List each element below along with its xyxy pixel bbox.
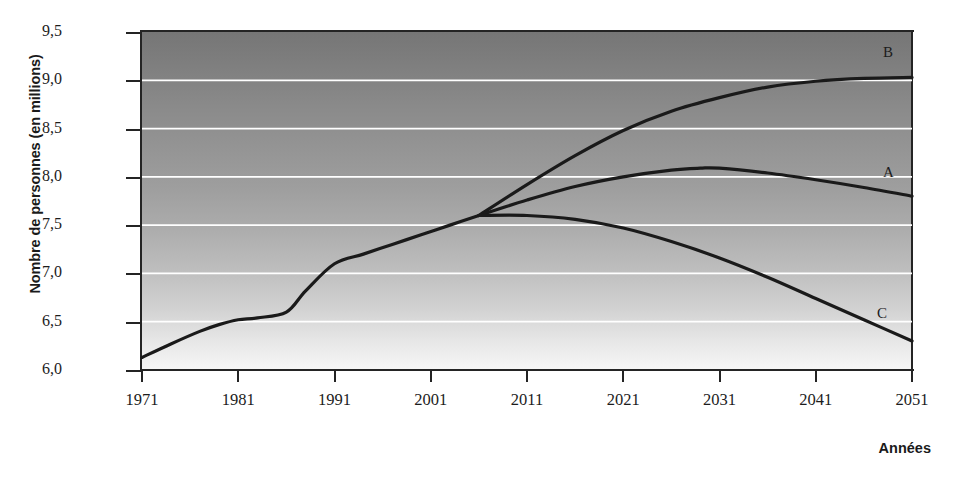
curve-label-b: B (883, 44, 893, 61)
y-tick-mark (126, 322, 141, 324)
plot-area (142, 32, 912, 370)
y-tick-mark (126, 80, 141, 82)
y-tick-label: 7,0 (0, 263, 62, 281)
y-tick-mark (126, 32, 141, 34)
x-tick-mark-2021 (622, 371, 624, 382)
y-tick-label: 9,0 (0, 70, 62, 88)
x-tick-label-2001: 2001 (391, 390, 471, 410)
y-tick-label: 6,0 (0, 360, 62, 378)
x-tick-label-1991: 1991 (295, 390, 375, 410)
x-tick-mark-2011 (526, 371, 528, 382)
x-tick-mark-1981 (237, 371, 239, 382)
y-tick-mark (126, 129, 141, 131)
y-tick-label: 8,5 (0, 119, 62, 137)
y-tick-label: 6,5 (0, 312, 62, 330)
x-tick-mark-2031 (719, 371, 721, 382)
y-tick-label: 8,0 (0, 167, 62, 185)
x-axis-title: Années (879, 440, 931, 456)
x-tick-label-2031: 2031 (680, 390, 760, 410)
y-tick-label: 9,5 (0, 22, 62, 40)
population-projection-chart: Nombre de personnes (en millions) 6,06,5… (0, 0, 954, 487)
x-tick-mark-2051 (911, 371, 913, 382)
x-tick-mark-1991 (334, 371, 336, 382)
axis-frame-top (140, 30, 914, 32)
y-tick-mark (126, 177, 141, 179)
axis-frame-right (911, 31, 913, 371)
x-tick-label-2021: 2021 (583, 390, 663, 410)
x-tick-label-2041: 2041 (776, 390, 856, 410)
x-tick-mark-2001 (430, 371, 432, 382)
y-tick-mark (126, 370, 141, 372)
y-tick-mark (126, 273, 141, 275)
x-tick-label-2051: 2051 (872, 390, 952, 410)
x-tick-label-1971: 1971 (102, 390, 182, 410)
x-tick-mark-1971 (141, 371, 143, 382)
x-tick-label-1981: 1981 (198, 390, 278, 410)
curve-label-c: C (877, 305, 887, 322)
curve-label-a: A (883, 164, 894, 181)
x-tick-mark-2041 (815, 371, 817, 382)
x-tick-label-2011: 2011 (487, 390, 567, 410)
y-tick-label: 7,5 (0, 215, 62, 233)
y-tick-mark (126, 225, 141, 227)
